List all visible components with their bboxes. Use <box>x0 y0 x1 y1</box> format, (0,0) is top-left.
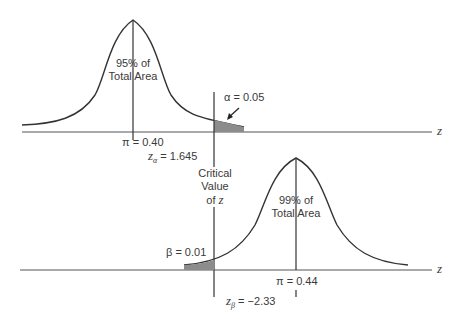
critical-line3-var: z <box>219 192 224 207</box>
critical-line3: of z <box>190 193 240 207</box>
critical-line2: Value <box>190 180 240 193</box>
bottom-area-label: 99% of Total Area <box>266 194 326 220</box>
beta-shaded-region <box>184 260 214 270</box>
bottom-area-label-line2: Total Area <box>266 207 326 220</box>
top-axis-z-label: z <box>437 124 442 137</box>
alpha-shaded-region <box>214 120 244 132</box>
critical-value-label: Critical Value of z <box>190 167 240 207</box>
top-area-label-line2: Total Area <box>103 70 163 83</box>
diagram-canvas <box>0 0 460 319</box>
z-alpha-label: zα = 1.645 <box>148 149 197 167</box>
z-beta-subscript: β <box>231 301 235 310</box>
bottom-mean-label: π = 0.44 <box>276 275 318 288</box>
top-mean-label: π = 0.40 <box>122 136 164 149</box>
top-area-label: 95% of Total Area <box>103 57 163 83</box>
z-alpha-value: = 1.645 <box>160 150 197 162</box>
beta-label: β = 0.01 <box>166 246 206 259</box>
z-alpha-subscript: α <box>153 156 157 165</box>
alpha-label: α = 0.05 <box>224 91 264 104</box>
critical-line3-prefix: of <box>206 194 215 206</box>
bottom-area-label-line1: 99% of <box>266 194 326 207</box>
top-area-label-line1: 95% of <box>103 57 163 70</box>
critical-line1: Critical <box>190 167 240 180</box>
z-beta-value: = −2.33 <box>238 295 275 307</box>
bottom-axis-z-label: z <box>437 262 442 275</box>
z-beta-label: zβ = −2.33 <box>226 294 275 312</box>
